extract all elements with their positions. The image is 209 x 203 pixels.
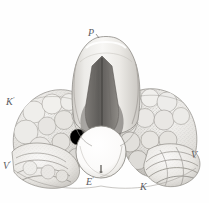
callout-text-K-left: K — [6, 96, 13, 107]
callout-label-vesicle-left: V′ — [3, 161, 11, 171]
bladder-group — [76, 126, 126, 178]
callout-label-kidney-right: K — [140, 182, 147, 192]
figure-plate: Fig. 10. — [0, 0, 209, 203]
callout-text-P: P — [88, 27, 94, 38]
callout-text-K-right: K — [140, 181, 147, 192]
callout-label-kidney-left: K′ — [6, 97, 14, 107]
callout-prime-V-left: ′ — [9, 159, 11, 167]
callout-prime-E: ′ — [92, 175, 94, 183]
callout-label-prostate: P — [88, 28, 94, 38]
callout-label-vesicle-right: V — [191, 150, 197, 160]
anatomical-engraving — [0, 0, 209, 203]
callout-label-ejaculatory: E′ — [86, 177, 94, 187]
callout-text-V-right: V — [191, 149, 197, 160]
callout-prime-K-left: ′ — [13, 95, 15, 103]
